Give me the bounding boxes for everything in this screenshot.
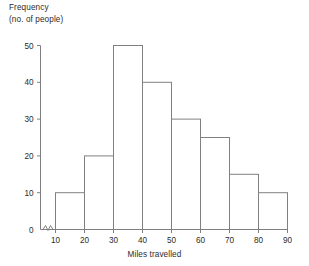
x-axis-tick-label: 90	[283, 236, 293, 245]
y-axis-tick-label: 30	[24, 115, 34, 124]
x-axis-tick-label: 30	[109, 236, 119, 245]
y-axis-tick-label: 50	[24, 42, 34, 51]
histogram-bar	[114, 46, 143, 230]
histogram-bar	[201, 138, 230, 230]
y-axis-tick-label: 10	[24, 189, 34, 198]
histogram-bar	[172, 119, 201, 229]
histogram-bar	[230, 174, 259, 229]
x-axis-tick-label: 80	[254, 236, 264, 245]
x-axis-tick-label: 20	[80, 236, 90, 245]
histogram-bar	[85, 156, 114, 230]
x-axis-tick-label: 10	[51, 236, 61, 245]
y-axis-tick-label: 0	[29, 226, 34, 235]
y-axis-tick-label: 20	[24, 152, 34, 161]
x-axis-ticks: 102030405060708090	[51, 230, 293, 245]
x-axis-tick-label: 50	[167, 236, 177, 245]
x-axis-tick-label: 60	[196, 236, 206, 245]
bar-series	[56, 46, 288, 230]
histogram-bar	[259, 193, 288, 230]
histogram-bar	[143, 82, 172, 229]
histogram-chart: Frequency(no. of people) 010203040501020…	[0, 0, 309, 266]
x-axis-title: Miles travelled	[0, 250, 309, 259]
x-axis-tick-label: 70	[225, 236, 235, 245]
x-axis-tick-label: 40	[138, 236, 148, 245]
histogram-bar	[56, 193, 85, 230]
y-axis-ticks: 01020304050	[24, 42, 40, 235]
y-axis-tick-label: 40	[24, 78, 34, 87]
plot-area: 01020304050102030405060708090	[0, 0, 309, 266]
